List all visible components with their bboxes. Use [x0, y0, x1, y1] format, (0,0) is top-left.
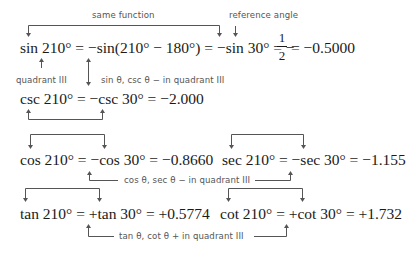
arrow-down-icon	[28, 145, 33, 149]
fraction-bar	[277, 46, 287, 47]
equation-sin: sin 210° = −sin(210° − 180°) = −sin 30° …	[20, 40, 295, 56]
equation-cos: cos 210° = −cos 30° = −0.8660	[20, 152, 213, 168]
arrow-up-icon	[87, 171, 92, 175]
arrow-down-icon	[86, 82, 91, 86]
label-tan-cot-sign: tan θ, cot θ + in quadrant III	[119, 232, 244, 241]
arrow-down-icon	[97, 198, 102, 202]
label-quadrant-iii: quadrant III	[16, 76, 67, 85]
arrow-down-icon	[226, 198, 231, 202]
arrow-down-icon	[233, 33, 238, 37]
arrow-up-icon	[86, 224, 91, 228]
label-reference-angle: reference angle	[229, 11, 298, 20]
fraction-denominator: 2	[277, 49, 287, 62]
arrow-up-icon	[288, 171, 293, 175]
arrow-down-icon	[217, 33, 222, 37]
arrow-down-icon	[26, 33, 31, 37]
label-same-function: same function	[92, 11, 155, 20]
arrow-up-icon	[39, 58, 44, 62]
arrow-up-icon	[100, 109, 105, 113]
arrow-down-icon	[300, 198, 305, 202]
equation-cot: cot 210° = +cot 30° = +1.732	[220, 206, 402, 222]
label-sin-csc-sign: sin θ, csc θ − in quadrant III	[101, 76, 224, 85]
label-cos-sec-sign: cos θ, sec θ − in quadrant III	[124, 176, 250, 185]
arrow-down-icon	[301, 145, 306, 149]
arrow-down-icon	[102, 145, 107, 149]
arrow-up-icon	[284, 224, 289, 228]
arrow-up-icon	[26, 109, 31, 113]
same-function-bracket	[29, 26, 220, 34]
equation-csc: csc 210° = −csc 30° = −2.000	[20, 91, 204, 107]
arrow-down-icon	[23, 198, 28, 202]
arrow-down-icon	[229, 145, 234, 149]
fraction-numerator: 1	[277, 31, 287, 44]
arrow-up-icon	[86, 58, 91, 62]
equation-tan: tan 210° = +tan 30° = +0.5774	[20, 206, 210, 222]
equation-sin-result: = −0.5000	[291, 40, 355, 56]
equation-sec: sec 210° = −sec 30° = −1.155	[222, 152, 406, 168]
